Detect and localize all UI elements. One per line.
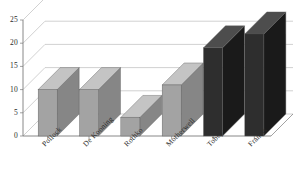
bar-chart: 0510152025 PollockDe KooningRothkoMother… [0, 0, 302, 182]
x-axis-category-labels: PollockDe KooningRothkoMotherwellTobeyFr… [0, 0, 302, 182]
x-axis-category-label: Rothko [122, 126, 145, 149]
x-axis-category-label: Pollock [40, 125, 64, 149]
x-axis-category-label: Motherwell [164, 116, 197, 149]
x-axis-category-label: Tobey [205, 128, 225, 148]
x-axis-category-label: Francis [246, 125, 269, 148]
x-axis-category-label: De Kooning [81, 115, 115, 149]
